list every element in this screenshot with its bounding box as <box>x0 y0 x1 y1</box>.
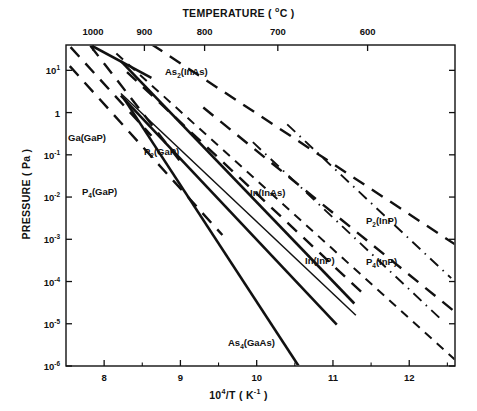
top-tick-label-700: 700 <box>270 26 286 37</box>
y-tick-label-10^-3: 10-3 <box>18 233 60 245</box>
data-curves <box>70 44 455 366</box>
y-tick-label-10^-5: 10-5 <box>18 318 60 330</box>
series-label-as2-inas: As2(InAs) <box>165 66 208 79</box>
top-tick-label-900: 900 <box>136 26 152 37</box>
figure-root: TEMPERATURE ( oC ) 104/T ( K-1 ) PRESSUR… <box>0 0 477 411</box>
curve-upper-solid-thick <box>90 45 151 78</box>
y-tick-label-10^-6: 10-6 <box>18 360 60 372</box>
x-tick-label-9: 9 <box>178 372 183 383</box>
series-label-p2-inp: P2(InP) <box>366 215 397 228</box>
series-label-p4-gap: P4(GaP) <box>82 186 117 199</box>
y-tick-label-1: 1 <box>18 107 60 118</box>
curve-as4gaas <box>124 99 299 366</box>
curve-p2gap <box>121 61 354 303</box>
curve-gagap <box>121 96 337 325</box>
top-tick-label-1000: 1000 <box>82 26 103 37</box>
series-label-in-inp: In(InP) <box>305 255 335 266</box>
curve-gagap-second <box>121 94 356 316</box>
series-label-p4-inp: P4(InP) <box>366 256 397 269</box>
x-tick-label-11: 11 <box>328 372 338 383</box>
y-tick-label-10^-1: 10-1 <box>18 149 60 161</box>
curve-ininas <box>203 108 455 312</box>
top-tick-label-600: 600 <box>360 26 376 37</box>
series-label-in-inas: In(InAs) <box>250 187 285 198</box>
y-tick-label-10^1: 101 <box>18 64 60 76</box>
series-label-p2-gap: P2(GaP) <box>144 146 179 159</box>
y-tick-label-10^-2: 10-2 <box>18 191 60 203</box>
x-tick-label-12: 12 <box>404 372 415 383</box>
x-tick-label-8: 8 <box>101 372 106 383</box>
series-label-as4-gaas: As4(GaAs) <box>228 337 275 350</box>
y-tick-label-10^-4: 10-4 <box>18 275 60 287</box>
top-tick-label-800: 800 <box>197 26 213 37</box>
x-tick-label-10: 10 <box>251 372 262 383</box>
series-label-ga-gap: Ga(GaP) <box>68 132 106 143</box>
curve-p4inp <box>253 142 444 322</box>
curve-ininp <box>116 53 455 359</box>
